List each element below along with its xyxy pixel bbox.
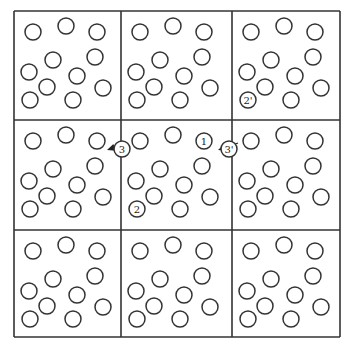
particle-circle — [65, 92, 81, 108]
particle-circle — [95, 299, 111, 315]
particle-circle — [307, 133, 323, 149]
particle-circle — [307, 243, 323, 259]
particle-circle — [58, 127, 74, 143]
particle-circle — [132, 243, 148, 259]
particle-circle — [243, 243, 259, 259]
particle-circle — [257, 79, 273, 95]
particle-circle — [287, 68, 303, 84]
particle-circle — [87, 49, 103, 65]
particle-circle — [257, 298, 273, 314]
particle-circle — [263, 161, 279, 177]
particle-circle — [87, 268, 103, 284]
particle-circle — [176, 177, 192, 193]
particle-circle — [128, 283, 144, 299]
particle-circle — [89, 133, 105, 149]
particle-circle — [202, 299, 218, 315]
particle-circle — [132, 133, 148, 149]
particle-circle — [95, 80, 111, 96]
particle-circle — [69, 68, 85, 84]
particle-circle — [239, 64, 255, 80]
particle-circle — [95, 189, 111, 205]
particle-circle — [165, 127, 181, 143]
particle-circle — [152, 52, 168, 68]
particle-circle — [58, 18, 74, 34]
periodic-boundary-diagram: 122'33' — [0, 0, 354, 350]
particle-circle — [165, 18, 181, 34]
particle-circle — [287, 177, 303, 193]
particle-circle — [239, 173, 255, 189]
particle-circle — [194, 158, 210, 174]
particle-circle — [202, 80, 218, 96]
particle-circle — [276, 127, 292, 143]
particle-circle — [176, 287, 192, 303]
particle-3-label: 3 — [119, 144, 125, 155]
particle-circle — [22, 201, 38, 217]
particle-2-image-label: 2' — [243, 95, 252, 106]
particle-circle — [263, 52, 279, 68]
particle-circle — [240, 201, 256, 217]
particle-circle — [196, 243, 212, 259]
particle-1-label: 1 — [201, 136, 207, 147]
particle-circle — [196, 24, 212, 40]
particle-circle — [305, 49, 321, 65]
particle-circle — [89, 243, 105, 259]
particle-circle — [69, 287, 85, 303]
particle-circle — [69, 177, 85, 193]
particle-circle — [243, 24, 259, 40]
particle-circle — [276, 18, 292, 34]
particle-circle — [129, 92, 145, 108]
particle-circle — [65, 311, 81, 327]
particle-circle — [276, 237, 292, 253]
particle-circle — [25, 133, 41, 149]
particle-circle — [257, 188, 273, 204]
particle-circle — [65, 201, 81, 217]
particle-circle — [239, 283, 255, 299]
particle-3-image-label: 3' — [224, 144, 233, 155]
labeled-particles-layer: 122'33' — [114, 92, 256, 217]
particle-circle — [194, 49, 210, 65]
particle-circle — [132, 24, 148, 40]
particle-circle — [313, 189, 329, 205]
particle-circle — [128, 64, 144, 80]
particle-circle — [202, 189, 218, 205]
particle-circle — [152, 161, 168, 177]
particle-circle — [21, 283, 37, 299]
particle-circle — [283, 92, 299, 108]
particle-circle — [89, 24, 105, 40]
particle-circle — [283, 201, 299, 217]
particle-circle — [21, 64, 37, 80]
particle-circle — [305, 268, 321, 284]
particle-circle — [194, 268, 210, 284]
particle-circle — [25, 24, 41, 40]
particle-circle — [243, 133, 259, 149]
particle-circle — [172, 92, 188, 108]
particle-circle — [21, 173, 37, 189]
particle-circle — [22, 92, 38, 108]
particle-circle — [45, 271, 61, 287]
particle-circle — [263, 271, 279, 287]
particle-circle — [287, 287, 303, 303]
particle-circle — [283, 311, 299, 327]
particle-circle — [146, 79, 162, 95]
particle-circle — [58, 237, 74, 253]
particle-circle — [45, 52, 61, 68]
particles-layer — [21, 18, 329, 327]
particle-circle — [45, 161, 61, 177]
particle-circle — [240, 311, 256, 327]
particle-circle — [39, 298, 55, 314]
particle-circle — [146, 298, 162, 314]
particle-circle — [152, 271, 168, 287]
particle-circle — [305, 158, 321, 174]
particle-circle — [313, 80, 329, 96]
particle-circle — [313, 299, 329, 315]
particle-circle — [129, 311, 145, 327]
particle-2-label: 2 — [134, 204, 140, 215]
particle-circle — [87, 158, 103, 174]
particle-circle — [128, 173, 144, 189]
particle-circle — [39, 79, 55, 95]
particle-circle — [25, 243, 41, 259]
particle-circle — [146, 188, 162, 204]
particle-circle — [39, 188, 55, 204]
particle-circle — [172, 201, 188, 217]
particle-circle — [172, 311, 188, 327]
